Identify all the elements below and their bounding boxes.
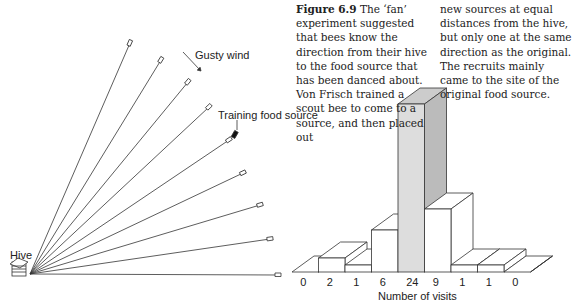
bar-value-label: 0 — [512, 276, 518, 288]
direction-ray — [30, 60, 161, 274]
direction-ray — [30, 205, 260, 274]
food-dish-icon — [257, 202, 264, 207]
bar-value-label: 6 — [380, 276, 386, 288]
bar-value-label: 1 — [459, 276, 465, 288]
bar-value-label: 9 — [433, 276, 439, 288]
figure-label: Figure 6.9 — [296, 3, 357, 15]
x-axis-label: Number of visits — [378, 290, 457, 302]
food-dish-icon — [127, 39, 133, 46]
bar-value-label: 24 — [406, 276, 418, 288]
caption-col2: new sources at equal distances from the … — [440, 2, 575, 101]
direction-ray — [30, 140, 229, 274]
direction-ray — [30, 107, 209, 274]
wind-label: Gusty wind — [195, 49, 249, 61]
food-dish-icon — [267, 237, 273, 241]
direction-ray — [30, 43, 130, 274]
training-source-icon — [231, 130, 238, 138]
food-dish-icon — [275, 273, 281, 277]
bar-value-label: 1 — [486, 276, 492, 288]
food-dish-icon — [205, 103, 212, 110]
caption-text-1: The ‘fan’ experiment suggested that bees… — [296, 3, 427, 143]
caption-col1: Figure 6.9 The ‘fan’ experiment suggeste… — [296, 2, 434, 144]
direction-ray — [30, 82, 188, 274]
bar-value-label: 2 — [327, 276, 333, 288]
food-dish-icon — [239, 170, 246, 176]
training-label: Training food source — [218, 109, 318, 121]
food-dish-icon — [225, 137, 232, 143]
hive-label: Hive — [10, 249, 32, 261]
food-dish-icon — [185, 78, 192, 85]
bar-value-label: 1 — [353, 276, 359, 288]
bar-value-label: 0 — [300, 276, 306, 288]
food-dish-icon — [158, 56, 164, 63]
direction-ray — [30, 274, 278, 275]
